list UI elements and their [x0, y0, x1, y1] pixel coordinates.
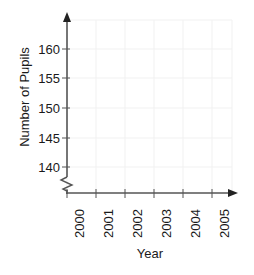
x-tick-label-2002: 2002 [130, 209, 145, 238]
x-axis-arrow-icon [228, 189, 238, 197]
x-tick-label-2001: 2001 [101, 209, 116, 238]
x-tick-label-2005: 2005 [217, 209, 232, 238]
y-tick-marks [62, 49, 70, 167]
y-axis-title: Number of Pupils [17, 22, 32, 172]
chart-container: 160 155 150 145 140 2000 2001 2002 2003 … [0, 0, 254, 275]
x-axis-title: Year [110, 246, 190, 261]
x-tick-label-2003: 2003 [159, 209, 174, 238]
grid-horizontal [67, 20, 232, 167]
x-tick-label-2000: 2000 [72, 209, 87, 238]
x-tick-label-2004: 2004 [188, 209, 203, 238]
y-axis-arrow-icon [63, 12, 71, 22]
